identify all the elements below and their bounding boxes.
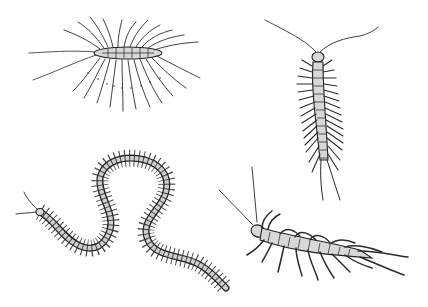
centipede-upright-figure bbox=[265, 20, 378, 200]
illustration-canvas bbox=[0, 0, 428, 307]
centipede-crawling-figure bbox=[219, 167, 408, 280]
centipede-winding-figure bbox=[16, 158, 226, 288]
house-centipede-figure bbox=[29, 17, 200, 111]
